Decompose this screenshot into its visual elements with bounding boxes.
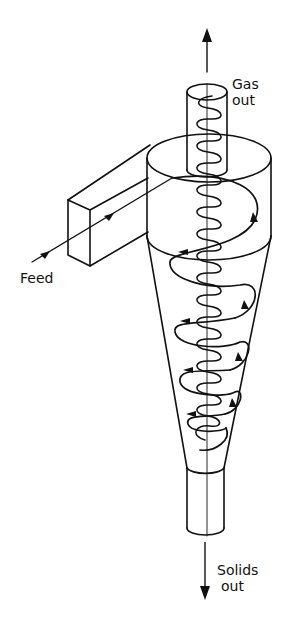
solids-outlet-pipe: [187, 468, 224, 535]
feed-arrow: [32, 178, 172, 262]
cyclone-cone: [147, 236, 271, 473]
outer-vortex-spiral: [170, 176, 258, 450]
solids-out-label: Solids out: [217, 562, 258, 594]
cyclone-cylinder: [147, 134, 271, 260]
solids-out-label-line1: Solids: [217, 562, 258, 578]
gas-out-label: Gas out: [232, 76, 259, 108]
feed-inlet-duct: [68, 145, 150, 266]
gas-out-arrow: [202, 28, 212, 72]
inner-vortex-spiral: [196, 96, 221, 440]
gas-out-label-line1: Gas: [232, 76, 259, 92]
gas-out-label-line2: out: [232, 92, 259, 108]
solids-out-label-line2: out: [217, 578, 258, 594]
feed-label: Feed: [20, 270, 53, 286]
